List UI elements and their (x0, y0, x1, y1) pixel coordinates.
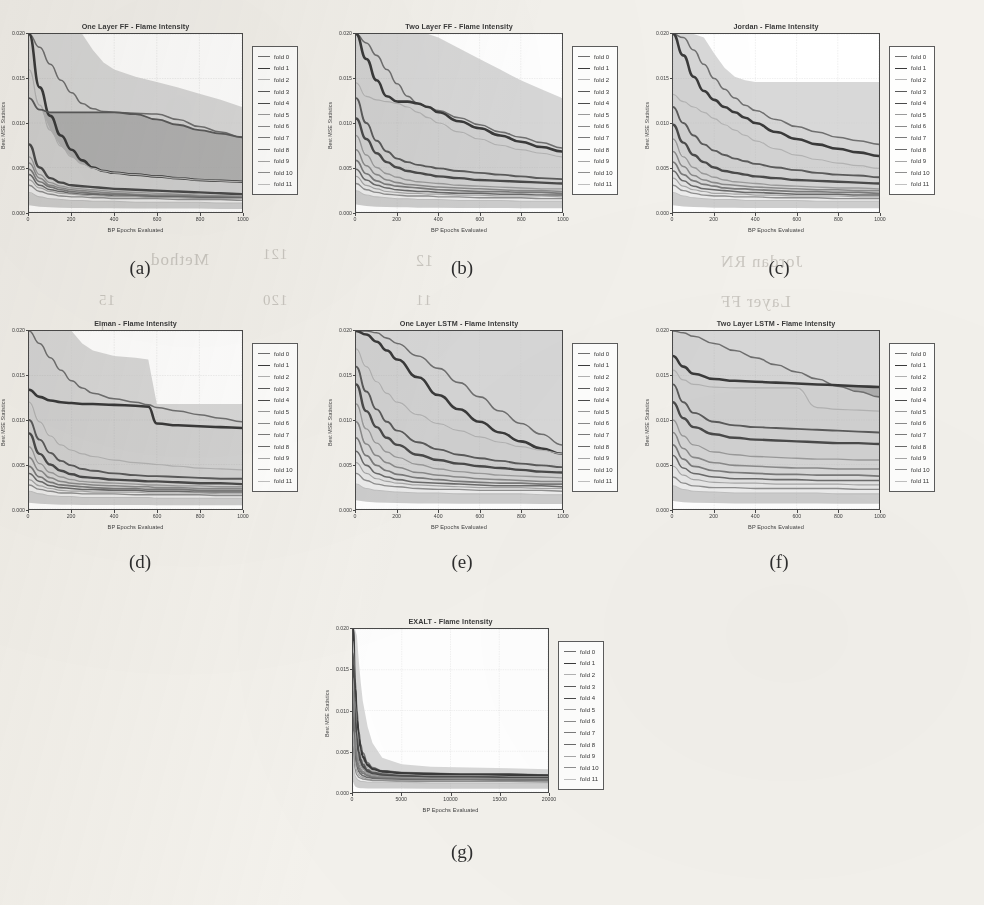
legend-line-swatch (564, 779, 576, 780)
chart-title: EXALT - Flame Intensity (352, 617, 549, 626)
y-tick-label: 0.015 (328, 666, 349, 672)
legend-item[interactable]: fold 7 (562, 727, 599, 739)
legend-line-swatch (564, 709, 576, 710)
legend-line-swatch (564, 686, 576, 687)
y-tick-label: 0.020 (328, 625, 349, 631)
legend-line-swatch (564, 767, 576, 768)
legend-item[interactable]: fold 3 (562, 681, 599, 693)
legend-line-swatch (564, 732, 576, 733)
legend-item[interactable]: fold 4 (562, 692, 599, 704)
figure-grid: One Layer FF - Flame IntensityBest MSE S… (0, 0, 984, 905)
legend-item-label: fold 6 (580, 718, 595, 724)
y-tick-label: 0.010 (328, 708, 349, 714)
legend-item[interactable]: fold 1 (562, 658, 599, 670)
legend-item[interactable]: fold 5 (562, 704, 599, 716)
legend-item-label: fold 3 (580, 684, 595, 690)
x-tick-mark (401, 793, 402, 796)
plot-area (352, 628, 549, 793)
x-tick-label: 5000 (387, 796, 415, 802)
legend-line-swatch (564, 698, 576, 699)
chart-panel-g: EXALT - Flame IntensityBest MSE Statisti… (0, 0, 984, 905)
subfigure-caption-g: (g) (432, 841, 492, 863)
legend-item[interactable]: fold 10 (562, 762, 599, 774)
x-tick-mark (451, 793, 452, 796)
legend-item[interactable]: fold 8 (562, 739, 599, 751)
legend-line-swatch (564, 651, 576, 652)
legend-item-label: fold 10 (580, 765, 599, 771)
legend-item[interactable]: fold 6 (562, 716, 599, 728)
legend-line-swatch (564, 721, 576, 722)
legend-item-label: fold 9 (580, 753, 595, 759)
legend-line-swatch (564, 744, 576, 745)
legend-item[interactable]: fold 2 (562, 669, 599, 681)
legend-item-label: fold 1 (580, 660, 595, 666)
legend-box[interactable]: fold 0fold 1fold 2fold 3fold 4fold 5fold… (558, 641, 604, 790)
x-tick-mark (500, 793, 501, 796)
legend-line-swatch (564, 756, 576, 757)
legend-item[interactable]: fold 0 (562, 646, 599, 658)
x-tick-mark (352, 793, 353, 796)
y-tick-label: 0.005 (328, 749, 349, 755)
legend-item-label: fold 4 (580, 695, 595, 701)
legend-item-label: fold 11 (580, 776, 598, 782)
x-tick-label: 15000 (486, 796, 514, 802)
legend-item-label: fold 0 (580, 649, 595, 655)
legend-item-label: fold 5 (580, 707, 595, 713)
legend-item-label: fold 2 (580, 672, 595, 678)
legend-item-label: fold 7 (580, 730, 595, 736)
legend-line-swatch (564, 663, 576, 664)
legend-item-label: fold 8 (580, 742, 595, 748)
legend-line-swatch (564, 674, 576, 675)
x-axis-label: BP Epochs Evaluated (352, 807, 549, 813)
x-tick-label: 20000 (535, 796, 563, 802)
x-tick-label: 10000 (437, 796, 465, 802)
x-tick-mark (549, 793, 550, 796)
legend-item[interactable]: fold 9 (562, 750, 599, 762)
legend-item[interactable]: fold 11 (562, 774, 599, 786)
x-tick-label: 0 (338, 796, 366, 802)
